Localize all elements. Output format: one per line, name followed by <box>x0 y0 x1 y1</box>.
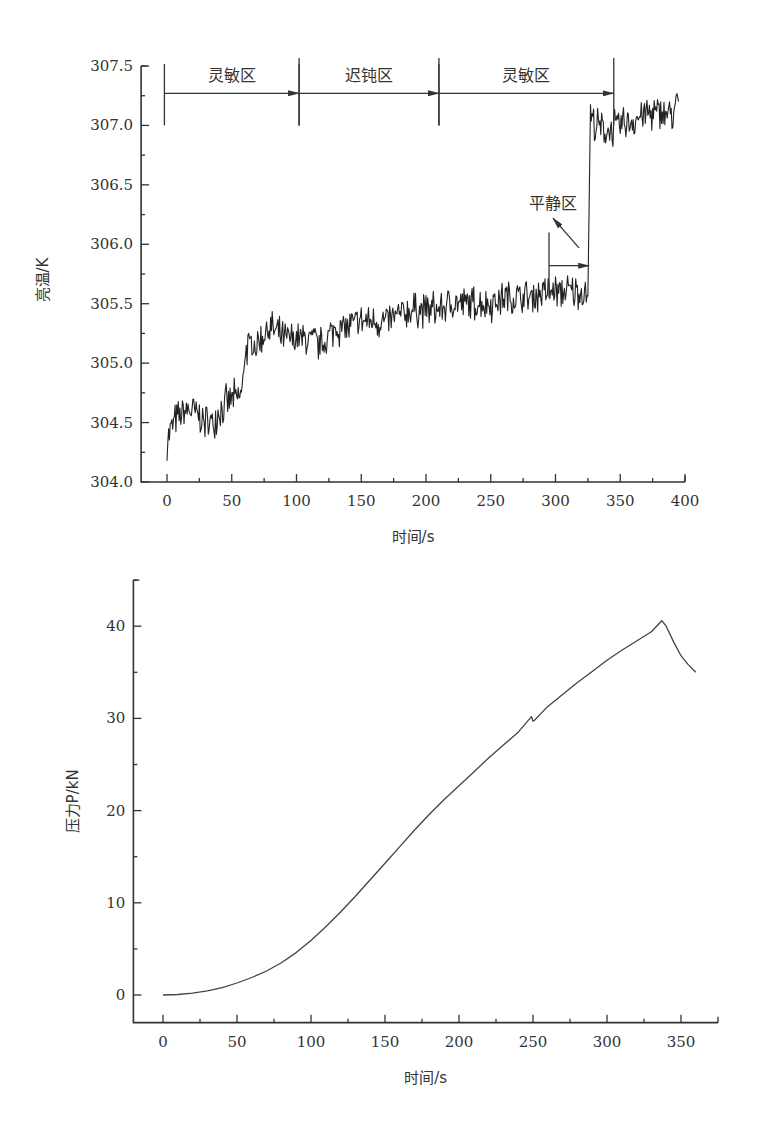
brightness-temperature-chart: 050100150200250300350400304.0304.5305.03… <box>0 0 759 560</box>
x-tick-label: 50 <box>222 492 241 510</box>
y-tick-label: 0 <box>116 986 126 1004</box>
x-tick-label: 100 <box>282 492 311 510</box>
axes <box>133 580 718 1023</box>
y-tick-label: 305.5 <box>90 295 133 313</box>
y-tick-label: 307.5 <box>90 57 133 75</box>
callout-arrow <box>553 218 579 248</box>
x-tick-label: 350 <box>667 1033 696 1051</box>
x-tick-label: 300 <box>593 1033 622 1051</box>
x-tick-label: 300 <box>541 492 570 510</box>
region-label: 迟钝区 <box>345 66 393 85</box>
data-line <box>167 94 679 461</box>
y-tick-label: 30 <box>106 709 125 727</box>
x-tick-label: 100 <box>297 1033 326 1051</box>
x-tick-label: 250 <box>519 1033 548 1051</box>
x-tick-label: 50 <box>227 1033 246 1051</box>
y-tick-label: 305.0 <box>90 354 133 372</box>
region-label: 灵敏区 <box>502 66 550 85</box>
y-tick-label: 306.0 <box>90 235 133 253</box>
y-tick-label: 40 <box>106 617 125 635</box>
x-tick-label: 150 <box>371 1033 400 1051</box>
region-label: 灵敏区 <box>208 66 256 85</box>
y-tick-label: 20 <box>106 802 125 820</box>
x-tick-label: 0 <box>158 1033 168 1051</box>
x-tick-label: 200 <box>445 1033 474 1051</box>
y-axis-label: 压力P/kN <box>64 769 82 833</box>
x-tick-label: 350 <box>606 492 635 510</box>
y-axis-label: 亮温/K <box>34 256 52 302</box>
x-tick-label: 250 <box>476 492 505 510</box>
y-tick-label: 304.5 <box>90 414 133 432</box>
x-axis-label: 时间/s <box>404 1069 447 1087</box>
x-tick-label: 400 <box>671 492 700 510</box>
pressure-plot: 050100150200250300350010203040时间/s压力P/kN <box>0 560 759 1133</box>
callout-label: 平静区 <box>529 194 577 213</box>
y-tick-label: 10 <box>106 894 125 912</box>
pressure-chart: 050100150200250300350010203040时间/s压力P/kN… <box>0 560 759 1133</box>
y-tick-label: 307.0 <box>90 116 133 134</box>
y-tick-label: 306.5 <box>90 176 133 194</box>
x-axis-label: 时间/s <box>392 528 435 546</box>
x-tick-label: 200 <box>412 492 441 510</box>
data-line <box>163 621 696 995</box>
y-tick-label: 304.0 <box>90 473 133 491</box>
x-tick-label: 150 <box>347 492 376 510</box>
brightness-temperature-plot: 050100150200250300350400304.0304.5305.03… <box>0 0 759 560</box>
x-tick-label: 0 <box>162 492 172 510</box>
